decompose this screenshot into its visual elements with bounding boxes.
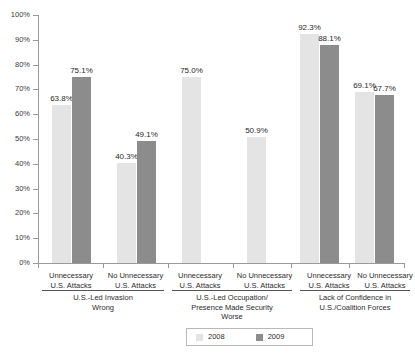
legend-item-2008[interactable]: 2008 [196,329,225,345]
group-label-1: U.S.-Led Occupation/Presence Made Securi… [162,293,302,322]
legend-swatch-2008-icon [196,334,203,341]
group-label-2: Lack of Confidence inU.S./Coalition Forc… [285,293,415,312]
bar-2008-1 [117,163,136,263]
clipped-footer-caption [0,352,415,358]
chart-legend: 2008 2009 [186,328,313,346]
bar-value-label: 88.1% [314,34,345,43]
x-tick [291,263,292,268]
x-tick [404,263,405,268]
legend-label-2009: 2009 [268,333,285,341]
bar-value-label: 67.7% [369,84,400,93]
y-tick-label: 40% [0,160,30,168]
bar-2009-4 [320,45,339,263]
group-label-line: Lack of Confidence in [285,293,415,303]
bar-2009-0 [72,77,91,263]
bar-2008-5 [355,92,374,263]
bar-value-label: 92.3% [294,23,325,32]
x-tick [38,263,39,268]
group-label-line: Worse [162,312,302,322]
y-tick-label: 70% [0,85,30,93]
x-tick [168,263,169,268]
group-label-line: Presence Made Security [162,303,302,313]
legend-label-2008: 2008 [208,333,225,341]
group-label-line: U.S.-Led Occupation/ [162,293,302,303]
group-label-line: U.S./Coalition Forces [285,303,415,313]
x-tick [233,263,234,268]
bar-value-label: 50.9% [241,126,272,135]
y-tick-label: 30% [0,185,30,193]
category-label-line: No Unnecessary [345,271,415,281]
x-tick [103,263,104,268]
y-tick-label: 60% [0,110,30,118]
legend-swatch-2009-icon [256,334,263,341]
y-tick-label: 0% [0,259,30,267]
bar-chart: 0%10%20%30%40%50%60%70%80%90%100% 63.8%7… [0,0,415,358]
y-tick-label: 80% [0,61,30,69]
category-label-5: No UnnecessaryU.S. Attacks [345,271,415,290]
bar-2008-4 [300,34,319,263]
legend-item-2009[interactable]: 2009 [256,329,285,345]
bar-2009-5 [375,95,394,263]
group-underline [300,290,410,291]
group-underline [172,290,292,291]
group-label-line: U.S.-Led Invasion [33,293,173,303]
y-tick-label: 90% [0,36,30,44]
bar-2008-0 [52,105,71,263]
bar-value-label: 49.1% [131,130,162,139]
y-tick-label: 20% [0,209,30,217]
y-tick-label: 50% [0,135,30,143]
group-label-0: U.S.-Led InvasionWrong [33,293,173,312]
y-tick-label: 100% [0,11,30,19]
bar-value-label: 75.1% [66,66,97,75]
y-tick-label: 10% [0,234,30,242]
group-underline [42,290,164,291]
plot-area: 63.8%75.1%40.3%49.1%75.0%50.9%92.3%88.1%… [38,15,404,263]
category-label-line: U.S. Attacks [345,281,415,291]
bar-2008-3 [247,137,266,263]
bar-value-label: 75.0% [176,66,207,75]
x-tick [349,263,350,268]
group-label-line: Wrong [33,303,173,313]
bar-2009-1 [137,141,156,263]
bar-2008-2 [182,77,201,263]
